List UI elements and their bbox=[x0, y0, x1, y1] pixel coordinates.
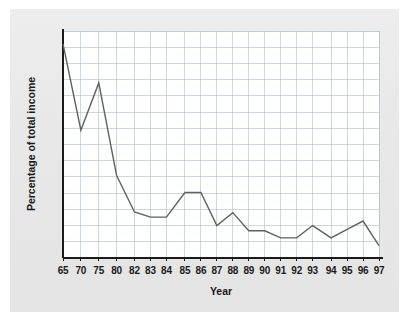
y-axis-title: Percentage of total income bbox=[25, 49, 37, 239]
x-axis-title: Year bbox=[63, 285, 379, 297]
x-axis-tick-labels: 6570758082838485868788899091929394959697 bbox=[10, 9, 399, 312]
line-chart: 3.503.253.002.752.502.252.001.751.501.25… bbox=[10, 9, 399, 312]
figure-frame: 3.503.253.002.752.502.252.001.751.501.25… bbox=[10, 9, 399, 312]
x-axis-tick-label: 97 bbox=[368, 266, 390, 276]
